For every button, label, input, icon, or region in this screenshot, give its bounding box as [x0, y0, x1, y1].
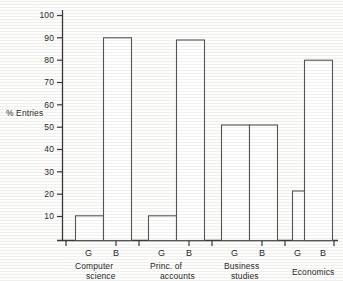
y-tick-label-50: 50	[28, 123, 54, 132]
category-label-economics-line1: Economics	[292, 268, 334, 277]
y-axis-title: % Entries	[6, 109, 43, 118]
group-label-princ-accounts-b: B	[186, 249, 192, 258]
y-tick-label-100: 100	[28, 11, 54, 20]
y-axis-ticks	[57, 16, 63, 217]
bar-computer-science-g	[76, 216, 104, 241]
bar-business-studies-b	[250, 125, 278, 241]
category-label-business-studies-line2: studies	[231, 272, 259, 281]
y-tick-label-10: 10	[28, 212, 54, 221]
bar-chart: 100 90 80 70 60 50 40 30 20 10 % Entries…	[0, 0, 343, 281]
group-label-computer-science-b: B	[113, 249, 119, 258]
x-axis-ticks	[66, 241, 334, 247]
category-label-princ-accounts-line1: Princ. of	[150, 262, 182, 271]
y-tick-label-30: 30	[28, 168, 54, 177]
y-tick-label-80: 80	[28, 56, 54, 65]
group-label-business-studies-g: G	[231, 249, 238, 258]
group-label-computer-science-g: G	[85, 249, 92, 258]
y-tick-label-70: 70	[28, 78, 54, 87]
bar-business-studies-g	[222, 125, 250, 241]
y-tick-label-90: 90	[28, 34, 54, 43]
bar-princ-accounts-b	[177, 40, 205, 241]
y-tick-label-20: 20	[28, 190, 54, 199]
category-label-computer-science-line1: Computer	[75, 262, 113, 271]
group-label-business-studies-b: B	[259, 249, 265, 258]
category-label-computer-science-line2: science	[86, 272, 116, 281]
category-label-business-studies-line1: Business	[224, 262, 259, 271]
group-label-economics-b: B	[320, 249, 326, 258]
group-label-economics-g: G	[294, 249, 301, 258]
group-label-princ-accounts-g: G	[158, 249, 165, 258]
bar-princ-accounts-g	[149, 216, 177, 241]
bar-economics-b	[305, 60, 333, 240]
bar-computer-science-b	[104, 38, 132, 241]
y-tick-label-40: 40	[28, 145, 54, 154]
category-label-princ-accounts-line2: accounts	[160, 272, 195, 281]
